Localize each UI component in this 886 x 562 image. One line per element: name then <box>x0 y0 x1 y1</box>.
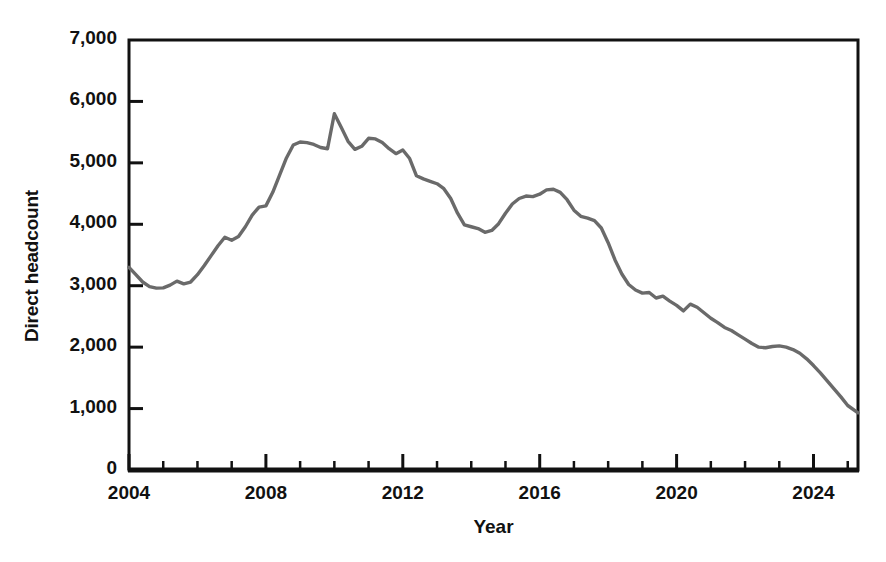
line-chart-svg <box>0 0 886 562</box>
x-tick-label: 2012 <box>363 482 443 504</box>
y-tick-label: 3,000 <box>21 273 117 295</box>
y-tick-label: 5,000 <box>21 150 117 172</box>
y-tick-label: 7,000 <box>21 27 117 49</box>
y-tick-label: 6,000 <box>21 88 117 110</box>
tick-marks <box>129 101 848 470</box>
x-tick-label: 2016 <box>500 482 580 504</box>
x-tick-label: 2004 <box>89 482 169 504</box>
plot-axes <box>128 40 859 470</box>
x-tick-label: 2008 <box>226 482 306 504</box>
y-tick-label: 2,000 <box>21 334 117 356</box>
x-tick-label: 2024 <box>774 482 854 504</box>
x-axis-title: Year <box>129 516 858 538</box>
data-line-series <box>129 114 858 413</box>
chart-figure: Direct headcount Year 01,0002,0003,0004,… <box>0 0 886 562</box>
x-tick-label: 2020 <box>637 482 717 504</box>
y-tick-label: 0 <box>21 457 117 479</box>
y-tick-label: 1,000 <box>21 396 117 418</box>
y-tick-label: 4,000 <box>21 211 117 233</box>
